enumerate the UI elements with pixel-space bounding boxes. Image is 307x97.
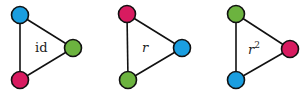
- panel-r: r: [119, 6, 191, 89]
- edge-top-right: [236, 14, 290, 49]
- panel-label: r2: [248, 40, 260, 57]
- edge-bottom-top: [127, 14, 128, 80]
- node-bottom: [120, 72, 137, 89]
- edge-right-bottom: [236, 49, 290, 80]
- edge-right-bottom: [128, 48, 182, 80]
- node-top: [228, 6, 245, 23]
- edge-top-right: [127, 14, 182, 48]
- node-bottom: [228, 72, 245, 89]
- panel-identity: id: [12, 7, 82, 89]
- node-top: [12, 7, 29, 24]
- panel-label: id: [35, 40, 47, 55]
- panel-r-squared: r2: [228, 6, 299, 89]
- node-right: [282, 41, 299, 58]
- node-bottom: [12, 72, 29, 89]
- node-right: [174, 40, 191, 57]
- node-right: [65, 40, 82, 57]
- triangle-rotation-diagram: id r r2: [0, 0, 307, 97]
- node-top: [119, 6, 136, 23]
- panel-label: r: [142, 40, 149, 55]
- panel-label-sup: 2: [254, 40, 260, 50]
